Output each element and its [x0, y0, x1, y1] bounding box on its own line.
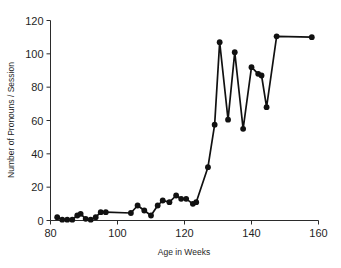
data-point-marker — [178, 196, 184, 202]
y-tick-label: 0 — [37, 215, 43, 227]
data-point-marker — [274, 33, 280, 39]
data-point-marker — [83, 216, 89, 222]
data-point-marker — [264, 104, 270, 110]
data-point-marker — [59, 217, 65, 223]
x-tick-label: 160 — [309, 227, 327, 239]
data-point-marker — [64, 217, 70, 223]
x-tick-label: 120 — [175, 227, 193, 239]
data-point-marker — [249, 64, 255, 70]
x-tick-label: 80 — [44, 227, 56, 239]
data-point-marker — [160, 198, 166, 204]
data-point-marker — [232, 49, 238, 55]
data-point-marker — [135, 203, 141, 209]
y-tick-label: 100 — [25, 48, 43, 60]
data-point-marker — [225, 117, 231, 123]
data-point-marker — [54, 214, 60, 220]
x-axis-tick-labels: 80100120140160 — [44, 227, 327, 239]
y-tick-label: 60 — [31, 115, 43, 127]
data-point-marker — [103, 209, 109, 215]
data-point-marker — [217, 39, 223, 45]
y-axis-tick-labels: 020406080100120 — [25, 15, 43, 227]
data-point-marker — [173, 193, 179, 199]
data-point-marker — [93, 214, 99, 220]
data-series-line — [57, 36, 312, 219]
x-axis-title: Age in Weeks — [158, 247, 210, 257]
y-tick-label: 80 — [31, 81, 43, 93]
y-tick-label: 20 — [31, 181, 43, 193]
y-axis-title: Number of Pronouns / Session — [6, 62, 16, 178]
y-tick-label: 40 — [31, 148, 43, 160]
data-point-marker — [148, 213, 154, 219]
data-point-marker — [78, 211, 84, 217]
y-axis-ticks — [47, 21, 51, 221]
data-point-marker — [240, 126, 246, 132]
chart-figure: 020406080100120 80100120140160 Age in We… — [0, 0, 341, 268]
x-tick-label: 140 — [242, 227, 260, 239]
data-point-marker — [259, 73, 265, 79]
line-chart-canvas: 020406080100120 80100120140160 Age in We… — [0, 0, 341, 268]
data-point-marker — [88, 217, 94, 223]
data-point-marker — [193, 199, 199, 205]
data-point-marker — [212, 122, 218, 128]
data-point-marker — [205, 164, 211, 170]
data-point-marker — [309, 34, 315, 40]
axes-group: 020406080100120 80100120140160 — [25, 15, 328, 239]
y-tick-label: 120 — [25, 15, 43, 27]
x-tick-label: 100 — [108, 227, 126, 239]
data-point-marker — [128, 210, 134, 216]
data-point-marker — [167, 199, 173, 205]
data-point-marker — [98, 209, 104, 215]
data-point-marker — [155, 203, 161, 209]
data-series-markers — [54, 33, 314, 222]
data-point-marker — [69, 217, 75, 223]
data-point-marker — [141, 208, 147, 214]
data-point-marker — [183, 196, 189, 202]
